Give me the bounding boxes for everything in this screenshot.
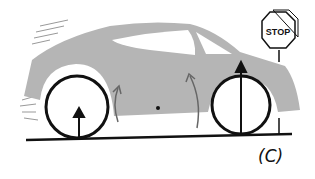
- stop-sign-icon: STOP: [262, 10, 298, 62]
- rear-wheel: [46, 76, 108, 138]
- figure-caption: (C): [258, 146, 283, 166]
- car-braking-diagram: STOP (C): [0, 0, 315, 179]
- stop-sign-text: STOP: [266, 27, 290, 37]
- center-of-mass-dot: [156, 106, 160, 110]
